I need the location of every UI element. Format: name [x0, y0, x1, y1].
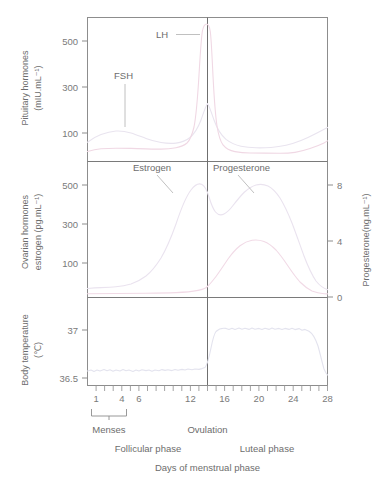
- ylabel-progesterone: Progesterone(ng.mL⁻¹): [361, 194, 371, 287]
- ylabel-ovarian-line1: Ovarian hormones: [20, 194, 30, 269]
- label-fsh: FSH: [114, 70, 133, 81]
- label-estrogen: Estrogen: [133, 162, 171, 173]
- xtick-label-6: 6: [136, 393, 141, 404]
- xtick-label-16: 16: [219, 393, 230, 404]
- ytick-label-300-pituitary: 300: [62, 82, 78, 93]
- ytick-label-0-progesterone: 0: [337, 292, 342, 303]
- ylabel-temperature-line1: Body temperature: [20, 314, 30, 386]
- follicular-phase-label: Follicular phase: [115, 443, 182, 454]
- ylabel-temperature-line2: (℃): [33, 342, 43, 358]
- menstrual-cycle-figure: 500 300 100 Pituitary hormones (mIU.mL⁻¹…: [0, 0, 383, 485]
- ylabel-pituitary-line2: (mIU.mL⁻¹): [33, 65, 43, 110]
- xtick-label-20: 20: [254, 393, 265, 404]
- ylabel-pituitary-line1: Pituitary hormones: [20, 50, 30, 126]
- xtick-label-28: 28: [322, 393, 333, 404]
- ovulation-label: Ovulation: [187, 424, 227, 435]
- ytick-label-36point5-temperature: 36.5: [60, 373, 79, 384]
- xtick-label-12: 12: [185, 393, 196, 404]
- menses-label: Menses: [92, 424, 126, 435]
- ytick-label-37-temperature: 37: [67, 325, 78, 336]
- ytick-label-100-ovarian: 100: [62, 258, 78, 269]
- x-axis-title: Days of menstrual phase: [155, 462, 260, 473]
- label-progesterone: Progesterone: [213, 162, 270, 173]
- ytick-label-300-ovarian: 300: [62, 219, 78, 230]
- ylabel-ovarian-line2: estrogen (pg.mL⁻¹): [33, 194, 43, 270]
- ytick-label-4-progesterone: 4: [337, 236, 342, 247]
- ytick-label-100-pituitary: 100: [62, 128, 78, 139]
- xtick-label-24: 24: [288, 393, 299, 404]
- ytick-label-8-progesterone: 8: [337, 180, 342, 191]
- luteal-phase-label: Luteal phase: [240, 443, 294, 454]
- xtick-label-1: 1: [93, 393, 98, 404]
- figure-svg: 500 300 100 Pituitary hormones (mIU.mL⁻¹…: [0, 0, 383, 485]
- label-lh: LH: [156, 29, 168, 40]
- ytick-label-500-ovarian: 500: [62, 180, 78, 191]
- xtick-label-4: 4: [119, 393, 124, 404]
- ytick-label-500-pituitary: 500: [62, 36, 78, 47]
- figure-background: [0, 0, 383, 485]
